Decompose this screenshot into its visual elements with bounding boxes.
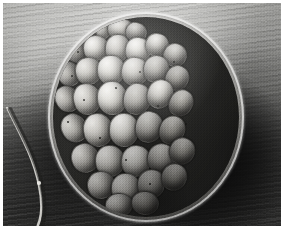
photo-frame (3, 3, 281, 226)
sem-micrograph-figure: spherical cluster of rounded polygonal b… (0, 0, 285, 232)
image-grain-overlay (3, 3, 281, 226)
